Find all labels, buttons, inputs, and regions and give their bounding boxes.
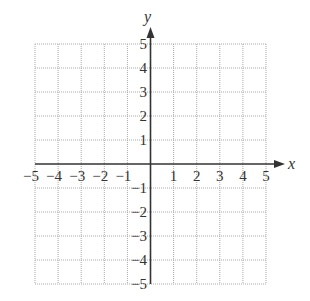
y-tick-label: 1 <box>140 132 148 148</box>
x-tick-label: −1 <box>115 168 131 184</box>
y-tick-label: −2 <box>131 204 147 220</box>
coordinate-plane: −5−4−3−2−112345 54321−1−2−3−4−5 x y <box>0 0 310 301</box>
y-tick-label: −5 <box>131 276 147 292</box>
x-tick-label: 3 <box>216 168 224 184</box>
y-tick-label: 5 <box>140 36 148 52</box>
y-axis-arrow-icon <box>147 27 155 38</box>
y-axis-label: y <box>142 8 152 26</box>
x-axis-arrow-icon <box>274 160 285 168</box>
y-tick-label: 2 <box>140 108 148 124</box>
x-tick-label: 5 <box>262 168 270 184</box>
x-tick-label: −5 <box>23 168 39 184</box>
axes <box>35 27 285 284</box>
y-tick-label: −3 <box>131 228 147 244</box>
y-tick-label: −1 <box>131 180 147 196</box>
x-tick-label: −4 <box>46 168 62 184</box>
x-tick-label: −3 <box>69 168 85 184</box>
x-tick-label: 4 <box>239 168 247 184</box>
y-tick-label: −4 <box>131 252 147 268</box>
y-tick-label: 4 <box>140 60 148 76</box>
x-tick-label: 2 <box>193 168 201 184</box>
y-tick-label: 3 <box>140 84 148 100</box>
x-tick-label: −2 <box>92 168 108 184</box>
x-axis-label: x <box>287 155 295 172</box>
x-tick-label: 1 <box>170 168 178 184</box>
